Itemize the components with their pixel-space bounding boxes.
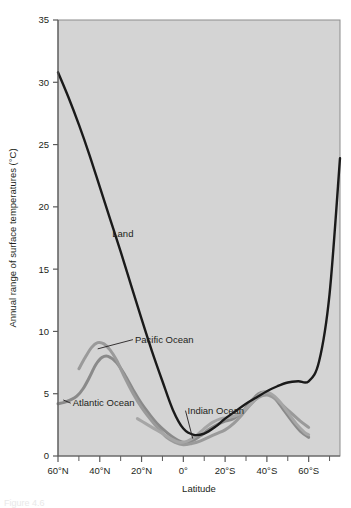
- figure-container: 05101520253035 60°N40°N20°N0°20°S40°S60°…: [0, 0, 351, 508]
- y-axis-tick-labels: 05101520253035: [38, 14, 49, 461]
- latitude-temperature-range-chart: 05101520253035 60°N40°N20°N0°20°S40°S60°…: [0, 0, 351, 508]
- y-tick-label: 0: [44, 450, 49, 461]
- x-tick-label: 20°N: [131, 465, 152, 476]
- x-tick-label: 0°: [179, 465, 188, 476]
- y-axis-title: Annual range of surface temperatures (°C…: [7, 148, 18, 327]
- x-tick-label: 40°S: [257, 465, 278, 476]
- x-axis-tick-labels: 60°N40°N20°N0°20°S40°S60°S: [47, 465, 319, 476]
- series-label-land: Land: [112, 228, 133, 239]
- series-label-pacific-ocean: Pacific Ocean: [135, 334, 194, 345]
- x-axis-title: Latitude: [182, 483, 216, 494]
- x-axis-ticks: [58, 456, 330, 462]
- x-tick-label: 20°S: [215, 465, 236, 476]
- y-tick-label: 30: [38, 77, 49, 88]
- y-axis-ticks: [53, 20, 58, 456]
- series-label-indian-ocean: Indian Ocean: [188, 405, 245, 416]
- figure-caption-fragment: Figure 4.6: [4, 498, 45, 508]
- y-tick-label: 20: [38, 201, 49, 212]
- plot-area-background: [58, 20, 340, 456]
- y-tick-label: 10: [38, 326, 49, 337]
- series-label-atlantic-ocean: Atlantic Ocean: [73, 397, 135, 408]
- y-tick-label: 15: [38, 264, 49, 275]
- x-tick-label: 40°N: [89, 465, 110, 476]
- x-tick-label: 60°N: [47, 465, 68, 476]
- y-tick-label: 35: [38, 14, 49, 25]
- y-tick-label: 25: [38, 139, 49, 150]
- y-tick-label: 5: [44, 388, 49, 399]
- x-tick-label: 60°S: [298, 465, 319, 476]
